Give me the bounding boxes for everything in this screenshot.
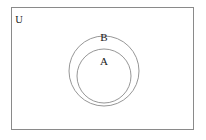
universal-set-label: U [15,14,23,25]
universal-set-rectangle [12,8,194,130]
set-a-label: A [100,55,108,67]
set-b-circle [69,36,139,106]
euler-diagram-canvas: U B A [0,0,206,140]
euler-diagram-svg: U B A [0,0,206,140]
set-b-label: B [100,31,107,43]
